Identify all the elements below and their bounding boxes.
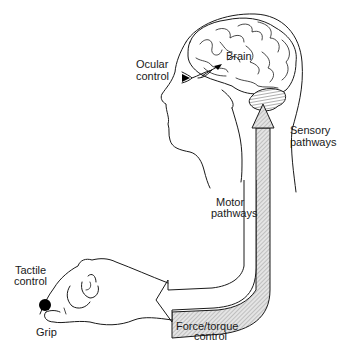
label-ocular-control: Ocular control xyxy=(136,58,169,82)
label-force-torque-control: Force/torque control xyxy=(176,320,238,342)
gripped-object xyxy=(39,299,51,311)
svg-text:pathways: pathways xyxy=(290,136,337,148)
svg-text:control: control xyxy=(194,330,227,342)
label-tactile-control: Tactile control xyxy=(14,264,47,287)
sensorimotor-diagram: Ocular control Brain Sensory pathways Mo… xyxy=(0,0,344,354)
label-grip: Grip xyxy=(36,326,57,338)
label-brain: Brain xyxy=(226,50,252,62)
svg-text:pathways: pathways xyxy=(211,207,258,219)
svg-text:Sensory: Sensory xyxy=(290,124,331,136)
svg-text:control: control xyxy=(14,275,47,287)
svg-text:Ocular: Ocular xyxy=(136,58,169,70)
eye-icon xyxy=(182,72,192,83)
label-sensory-pathways: Sensory pathways xyxy=(290,124,337,148)
svg-text:control: control xyxy=(136,70,169,82)
cerebellum-drawing xyxy=(249,89,285,111)
hand-drawing xyxy=(40,259,172,325)
